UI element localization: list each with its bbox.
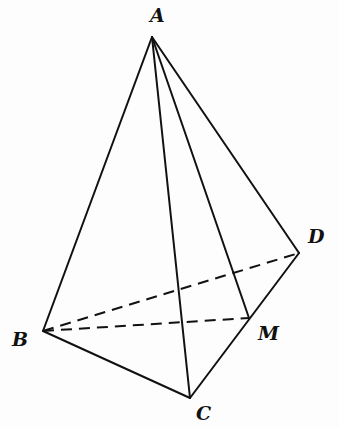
label-D: D [307, 225, 325, 247]
diagram-canvas: A B C D M [0, 0, 339, 427]
label-C: C [196, 402, 211, 424]
edge-AD [152, 37, 299, 253]
edge-BM-dashed [43, 318, 249, 331]
edge-BC [43, 331, 190, 398]
label-B: B [11, 328, 28, 350]
edge-BD-dashed [43, 253, 299, 331]
edge-AB [43, 37, 152, 331]
label-A: A [148, 4, 165, 26]
edge-CD [190, 253, 299, 398]
label-M: M [257, 322, 280, 344]
tetrahedron-diagram: A B C D M [0, 0, 339, 427]
